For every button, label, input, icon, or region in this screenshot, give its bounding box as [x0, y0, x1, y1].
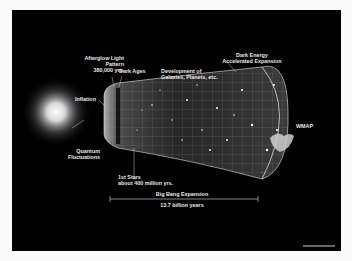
first-stars-line-2: about 400 million yrs. — [118, 180, 173, 186]
big-bang-expansion-label: Big Bang Expansion — [132, 191, 232, 197]
dark-energy-label: Dark Energy Accelerated Expansion — [212, 52, 292, 64]
dark-ages-label: Dark Ages — [119, 68, 145, 74]
big-bang-glow — [20, 76, 92, 148]
dark-ages-band — [116, 88, 120, 144]
funnel-grid — [104, 66, 288, 179]
duration-label: 13.7 billion years — [132, 202, 232, 208]
development-label: Development of Galaxies, Planets, etc. — [161, 68, 218, 80]
universe-diagram-panel: Afterglow Light Pattern 380,000 yrs. Dar… — [12, 10, 341, 251]
wmap-label: WMAP — [296, 123, 313, 129]
first-stars-label: 1st Stars about 400 million yrs. — [118, 174, 173, 186]
dark-energy-line-2: Accelerated Expansion — [212, 58, 292, 64]
inflation-label: Inflation — [75, 96, 96, 102]
quantum-line-2: Fluctuations — [52, 154, 100, 160]
quantum-fluctuations-label: Quantum Fluctuations — [52, 148, 100, 160]
development-line-2: Galaxies, Planets, etc. — [161, 74, 218, 80]
afterglow-line-3: 380,000 yrs. — [72, 67, 124, 73]
expansion-funnel-graphic — [12, 10, 341, 251]
image-credit — [303, 245, 335, 247]
afterglow-label: Afterglow Light Pattern 380,000 yrs. — [72, 55, 124, 73]
